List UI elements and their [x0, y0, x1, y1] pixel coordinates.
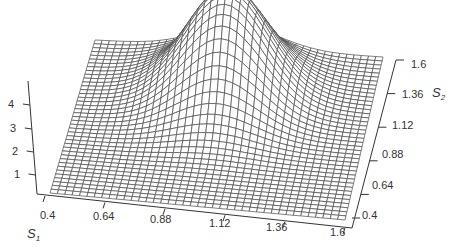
s1-tick-label: 1.36 — [266, 221, 287, 233]
mesh-cell — [175, 201, 183, 206]
s2-tick-label: 0.88 — [382, 148, 403, 160]
mesh-cell — [87, 193, 95, 198]
mesh-cell — [222, 14, 230, 28]
mesh-cell — [209, 92, 217, 104]
mesh-cell — [149, 157, 157, 162]
z-tick — [27, 151, 34, 152]
wireframe-surface-chart: 1 2 3 4 0.4 0.64 0.88 1.12 1.36 1.6 0.4 … — [0, 0, 455, 249]
s1-tick — [43, 196, 45, 202]
surface-mesh — [50, 0, 383, 220]
mesh-cell — [131, 197, 140, 202]
s2-axis-title: S2 — [432, 85, 446, 102]
mesh-cell — [330, 215, 338, 220]
z-tick — [23, 104, 30, 105]
mesh-cell — [212, 204, 220, 209]
mesh-cell — [224, 93, 232, 107]
mesh-cell — [152, 142, 160, 147]
mesh-cell — [194, 153, 202, 159]
mesh-cell — [205, 203, 213, 208]
s1-tick-label: 0.88 — [150, 213, 171, 225]
mesh-cell — [323, 214, 331, 219]
mesh-cell — [125, 134, 133, 139]
s2-tick-label: 1.6 — [411, 58, 426, 70]
mesh-cell — [219, 52, 227, 67]
mesh-cell — [220, 125, 228, 135]
z-axis-line — [28, 81, 37, 194]
s1-tick-label: 1.12 — [209, 217, 230, 229]
mesh-cell — [190, 133, 198, 141]
mesh-cell — [211, 141, 219, 149]
mesh-cell — [196, 140, 204, 147]
s1-tick-label: 0.64 — [93, 210, 114, 222]
mesh-cell — [220, 39, 228, 54]
mesh-cell — [204, 140, 212, 147]
mesh-cell — [171, 158, 179, 163]
mesh-cell — [222, 105, 230, 118]
mesh-cell — [102, 194, 111, 199]
mesh-cell — [211, 66, 219, 80]
mesh-cell — [219, 134, 227, 143]
mesh-cell — [212, 52, 220, 66]
mesh-cell — [308, 213, 316, 218]
mesh-cell — [139, 197, 147, 202]
mesh-cell — [216, 92, 224, 105]
mesh-cell — [316, 213, 324, 218]
s1-tick-label: 1.6 — [330, 226, 345, 238]
mesh-cell — [293, 211, 301, 216]
mesh-cell — [173, 147, 181, 153]
mesh-cell — [208, 159, 216, 165]
s1-tick — [103, 202, 105, 208]
mesh-cell — [202, 153, 210, 159]
mesh-cell — [165, 153, 173, 158]
mesh-cell — [136, 152, 144, 157]
mesh-cell — [217, 79, 225, 93]
s2-tick-label: 1.12 — [392, 119, 413, 131]
mesh-cell — [234, 206, 242, 211]
mesh-cell — [257, 208, 265, 213]
mesh-cell — [338, 215, 346, 220]
mesh-cell — [80, 192, 89, 197]
mesh-cell — [221, 115, 229, 126]
z-tick-label: 1 — [14, 168, 20, 180]
mesh-cell — [181, 147, 189, 153]
z-tick-label: 2 — [12, 145, 18, 157]
mesh-cell — [50, 189, 59, 194]
mesh-cell — [242, 207, 250, 212]
mesh-cell — [179, 158, 187, 163]
mesh-cell — [198, 124, 206, 133]
z-tick-label: 4 — [8, 98, 14, 110]
s2-tick-label: 0.64 — [372, 179, 393, 191]
mesh-cell — [146, 198, 154, 203]
mesh-cell — [187, 153, 195, 159]
s1-axis-title: S1 — [27, 226, 40, 243]
mesh-cell — [116, 195, 124, 200]
z-tick — [28, 174, 35, 175]
mesh-cell — [279, 210, 287, 215]
mesh-cell — [190, 202, 198, 207]
mesh-cell — [210, 148, 218, 155]
s1-tick-label: 0.4 — [40, 209, 55, 221]
mesh-cell — [158, 152, 166, 157]
surface-plot: 1 2 3 4 0.4 0.64 0.88 1.12 1.36 1.6 0.4 … — [0, 0, 455, 249]
mesh-cell — [198, 203, 206, 208]
mesh-cell — [160, 142, 168, 148]
mesh-cell — [213, 124, 221, 134]
z-tick-label: 3 — [10, 122, 16, 134]
mesh-cell — [207, 114, 215, 124]
mesh-cell — [264, 209, 272, 214]
mesh-cell — [214, 114, 222, 125]
z-tick — [25, 128, 32, 129]
mesh-cell — [220, 205, 228, 210]
s2-tick-label: 1.36 — [402, 88, 423, 100]
mesh-cell — [189, 140, 197, 147]
mesh-cell — [201, 159, 209, 165]
mesh-cell — [109, 195, 118, 200]
s2-tick-label: 0.4 — [362, 209, 377, 221]
mesh-cell — [271, 209, 279, 214]
mesh-cell — [168, 200, 176, 205]
mesh-cell — [206, 124, 214, 133]
mesh-cell — [301, 212, 309, 217]
mesh-cell — [144, 148, 152, 153]
mesh-cell — [286, 211, 294, 216]
mesh-cell — [117, 139, 125, 143]
